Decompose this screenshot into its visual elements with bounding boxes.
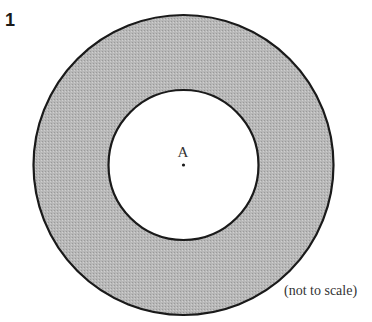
center-label: A <box>178 144 189 160</box>
annulus-diagram: A <box>0 0 372 322</box>
center-point <box>182 163 185 166</box>
not-to-scale-note: (not to scale) <box>284 283 357 299</box>
